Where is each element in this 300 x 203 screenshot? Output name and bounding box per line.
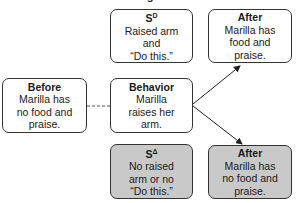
sdelta-heading: SΔ xyxy=(114,146,189,161)
before-box: Before Marilla has no food and praise. xyxy=(2,78,87,133)
behavior-box: Behavior Marilla raises her arm. xyxy=(110,78,193,133)
sd-heading: SD xyxy=(114,10,189,25)
after-bottom-heading: After xyxy=(212,147,288,160)
after-top-box: After Marilla has food and praise. xyxy=(208,9,292,63)
after-bottom-box: After Marilla has no food and praise. xyxy=(208,145,292,199)
sd-box: SD Raised arm and “Do this.” xyxy=(110,9,193,63)
before-heading: Before xyxy=(6,81,83,94)
sdelta-box: SΔ No raised arm or no “Do this.” xyxy=(110,144,193,199)
after-top-heading: After xyxy=(212,11,288,24)
behavior-heading: Behavior xyxy=(114,81,189,94)
arrow-to-after-bottom xyxy=(193,106,242,144)
arrow-to-after-top xyxy=(193,66,240,104)
